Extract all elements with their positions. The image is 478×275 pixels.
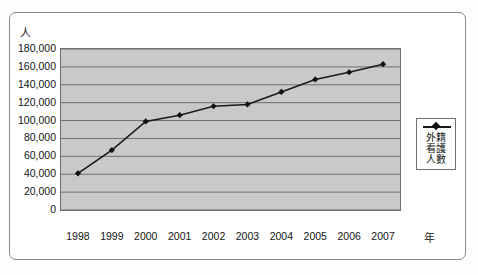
chart-legend: 外籍 看護 人數 (416, 118, 456, 170)
legend-label-line-2: 看護 (419, 143, 453, 154)
legend-marker-icon (419, 122, 453, 131)
chart-figure: 人 年 020,00040,00060,00080,000100,000120,… (0, 0, 478, 275)
diamond-marker-icon (432, 122, 440, 130)
legend-label-line-1: 外籍 (419, 132, 453, 143)
x-axis-tick-labels: 1998199920002001200220032004200520062007 (0, 0, 478, 275)
legend-label-line-3: 人數 (419, 154, 453, 165)
x-tick-label: 2007 (363, 231, 403, 242)
